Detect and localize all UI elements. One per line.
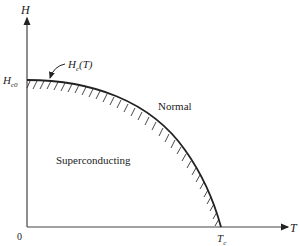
hc0-label: Hc0	[2, 74, 18, 89]
normal-region-label: Normal	[158, 100, 192, 112]
y-axis-label: H	[20, 3, 31, 17]
tc-label: Tc	[217, 232, 227, 246]
phase-diagram: H T 0 Hc0 Tc Hc(T) Normal Superconductin…	[0, 0, 300, 246]
origin-label: 0	[17, 231, 22, 242]
superconducting-region-label: Superconducting	[56, 154, 131, 166]
curve-label-leader	[50, 64, 65, 78]
x-axis-label: T	[290, 221, 298, 235]
curve-label: Hc(T)	[67, 58, 93, 73]
